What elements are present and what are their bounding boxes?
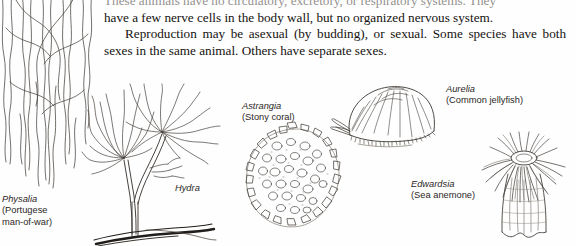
figure-label-astrangia: Astrangia (Stony coral)	[242, 101, 295, 124]
figure-label-aurelia: Aurelia (Common jellyfish)	[446, 84, 523, 107]
astrangia-scientific-name: Astrangia	[242, 101, 295, 112]
physalia-common-name-line2: man-of-war)	[2, 217, 52, 228]
figure-label-hydra: Hydra	[175, 183, 200, 194]
paragraph-reproduction: Reproduction may be asexual (by budding)…	[104, 26, 566, 59]
physalia-scientific-name: Physalia	[2, 194, 52, 205]
astrangia-common-name: (Stony coral)	[242, 112, 295, 123]
aurelia-scientific-name: Aurelia	[446, 84, 523, 95]
hydra-illustration	[88, 84, 228, 246]
figure-label-physalia: Physalia (Portugese man-of-war)	[2, 194, 52, 228]
edwardsia-illustration	[470, 132, 570, 244]
physalia-common-name-line1: (Portugese	[2, 205, 52, 216]
clipped-text-line: These animals have no circulatory, excre…	[104, 0, 566, 10]
edwardsia-common-name: (Sea anemone)	[411, 190, 475, 201]
hydra-scientific-name: Hydra	[175, 183, 200, 193]
astrangia-illustration	[245, 126, 343, 230]
body-text-block: These animals have no circulatory, excre…	[104, 0, 566, 59]
figure-label-edwardsia: Edwardsia (Sea anemone)	[411, 179, 475, 202]
textbook-page: These animals have no circulatory, excre…	[0, 0, 576, 246]
aurelia-common-name: (Common jellyfish)	[446, 95, 523, 106]
edwardsia-scientific-name: Edwardsia	[411, 179, 475, 190]
aurelia-illustration	[330, 83, 438, 149]
paragraph-nervous-system: have a few nerve cells in the body wall,…	[104, 10, 566, 27]
